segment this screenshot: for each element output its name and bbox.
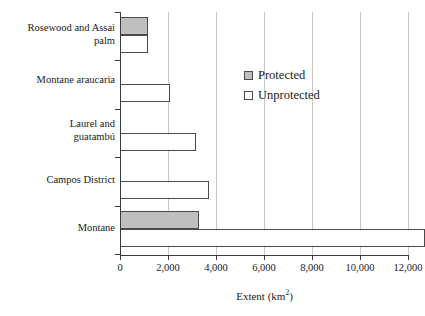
x-axis-tick-0	[120, 255, 121, 260]
x-axis-label-10000: 10,000	[346, 262, 375, 273]
gridline-12000	[408, 12, 409, 255]
bar-group-laurel	[120, 109, 408, 157]
legend-label-unprotected: Unprotected	[258, 88, 320, 103]
category-label-rosewood-line2: palm	[2, 35, 115, 48]
bar-laurel-unprotected	[120, 133, 196, 151]
x-axis-tick-10000	[360, 255, 361, 260]
bar-montane-protected	[120, 211, 199, 229]
x-axis-label-0: 0	[117, 262, 122, 273]
category-label-laurel-line2: guatambú	[2, 131, 115, 144]
x-axis-label-12000: 12,000	[394, 262, 423, 273]
legend-swatch-protected-icon	[244, 71, 253, 80]
bar-group-campos-district	[120, 157, 408, 206]
category-label-rosewood: Rosewood and Assai palm	[2, 22, 115, 47]
category-label-rosewood-line1: Rosewood and Assai	[2, 22, 115, 35]
x-axis-label-2000: 2,000	[156, 262, 180, 273]
category-label-laurel-line1: Laurel and	[2, 118, 115, 131]
bar-rosewood-unprotected	[120, 35, 148, 53]
bar-montane-araucaria-unprotected	[120, 84, 170, 102]
legend-label-protected: Protected	[258, 68, 305, 83]
bar-montane-unprotected	[120, 229, 425, 247]
legend-swatch-unprotected-icon	[244, 91, 253, 100]
x-axis-title-base: Extent (km	[236, 290, 285, 302]
y-axis-line	[120, 12, 121, 255]
x-axis-tick-2000	[168, 255, 169, 260]
x-axis-title: Extent (km2)	[120, 288, 409, 302]
plot-area	[120, 12, 408, 255]
x-axis-tick-8000	[312, 255, 313, 260]
x-axis-label-4000: 4,000	[204, 262, 228, 273]
bar-group-montane	[120, 206, 408, 254]
category-label-campos-district: Campos District	[2, 174, 115, 187]
x-axis-title-tail: )	[289, 290, 293, 302]
x-axis-label-6000: 6,000	[252, 262, 276, 273]
x-axis-tick-12000	[408, 255, 409, 260]
bar-group-rosewood	[120, 12, 408, 60]
category-label-laurel: Laurel and guatambú	[2, 118, 115, 143]
category-label-montane: Montane	[2, 222, 115, 235]
bar-campos-district-unprotected	[120, 181, 209, 199]
category-label-montane-araucaria: Montane araucaria	[2, 74, 115, 87]
legend: Protected Unprotected	[244, 66, 320, 106]
legend-item-unprotected: Unprotected	[244, 86, 320, 104]
x-axis-tick-4000	[216, 255, 217, 260]
x-axis-tick-6000	[264, 255, 265, 260]
x-axis-label-8000: 8,000	[300, 262, 324, 273]
legend-item-protected: Protected	[244, 66, 320, 84]
bar-rosewood-protected	[120, 17, 148, 35]
